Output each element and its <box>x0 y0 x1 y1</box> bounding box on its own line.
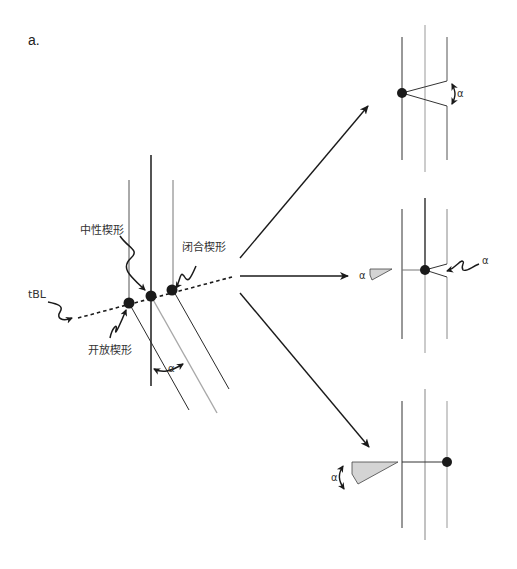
left-alpha-label: α <box>168 363 175 374</box>
neutral-wedge-label: 中性楔形 <box>80 223 124 237</box>
open-pointer-icon <box>110 310 126 338</box>
tbl-pointer-icon <box>48 302 72 320</box>
tbl-label: tBL <box>28 288 47 301</box>
open-wedge-label: 开放楔形 <box>88 343 132 357</box>
arrow-to-bottom-panel <box>240 293 369 447</box>
closed-wedge-label: 闭合楔形 <box>182 240 226 254</box>
middle-right-alpha-label: α <box>482 255 489 266</box>
bottom-panel-dot <box>442 457 452 467</box>
middle-left-alpha-label: α <box>359 270 366 281</box>
bottom-alpha-label: α <box>331 472 338 483</box>
closed-pointer-icon <box>176 266 196 288</box>
closed-wedge-dot <box>167 285 178 296</box>
top-alpha-arrow-icon <box>452 84 455 104</box>
top-alpha-label: α <box>457 88 464 99</box>
arrow-to-top-panel <box>240 106 368 258</box>
bottom-panel: α <box>331 389 452 540</box>
neutral-wedge-dot <box>146 291 157 302</box>
closed-diagonal-line <box>173 290 229 389</box>
middle-panel-dot <box>420 265 430 275</box>
neutral-pointer-icon <box>120 236 145 290</box>
middle-wedge-shape <box>370 269 392 280</box>
top-panel: α <box>397 25 464 172</box>
open-diagonal-line <box>129 303 189 410</box>
open-wedge-dot <box>124 298 135 309</box>
wedge-diagram: 中性楔形 闭合楔形 开放楔形 tBL α α α α <box>0 0 517 569</box>
bottom-alpha-arrow-icon <box>339 466 344 489</box>
top-panel-dot <box>397 88 407 98</box>
left-diagram: 中性楔形 闭合楔形 开放楔形 tBL α <box>28 155 232 413</box>
bottom-wedge-shape <box>352 462 398 484</box>
transition-arrows <box>240 106 369 447</box>
middle-alpha-pointer-icon <box>447 261 479 271</box>
middle-panel: α α <box>359 198 489 353</box>
neutral-diagonal-line <box>151 296 217 413</box>
